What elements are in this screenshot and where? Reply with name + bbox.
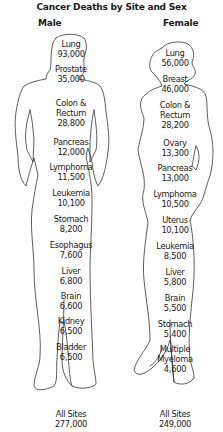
site-value: 10,500	[140, 199, 210, 209]
site-label: Liver	[36, 266, 106, 276]
site-label: Stomach	[36, 214, 106, 224]
female-site-stomach: Stomach 5,400	[140, 319, 210, 339]
site-value: 35,000	[36, 74, 106, 84]
site-value: 4,600	[140, 364, 210, 374]
site-value: 6,500	[36, 326, 106, 336]
male-site-pancreas: Pancreas 12,000	[36, 137, 106, 157]
male-site-lymphoma: Lymphoma 11,500	[36, 162, 106, 182]
male-site-leukemia: Leukemia 10,100	[36, 188, 106, 208]
site-label: Liver	[140, 267, 210, 277]
female-site-colon-rectum: Colon & Rectum 28,200	[140, 100, 210, 130]
total-label: All Sites	[140, 409, 210, 419]
male-site-liver: Liver 6,800	[36, 266, 106, 286]
site-label: Breast	[140, 74, 210, 84]
site-label: Bladder	[36, 342, 106, 352]
female-site-lung: Lung 56,000	[140, 48, 210, 68]
site-value: 11,500	[36, 172, 106, 182]
site-value: 13,300	[140, 148, 210, 158]
male-site-stomach: Stomach 8,200	[36, 214, 106, 234]
female-site-multiple-myeloma: Multiple Myeloma 4,600	[140, 344, 210, 374]
site-label: Kidney	[36, 316, 106, 326]
site-label: Leukemia	[140, 241, 210, 251]
site-value: 7,600	[36, 250, 106, 260]
total-value: 249,000	[140, 419, 210, 429]
site-label: Esophagus	[36, 240, 106, 250]
site-label: Colon & Rectum	[52, 98, 90, 118]
male-site-kidney: Kidney 6,500	[36, 316, 106, 336]
site-value: 12,000	[36, 147, 106, 157]
site-value: 56,000	[140, 58, 210, 68]
site-label: Lung	[140, 48, 210, 58]
site-label: Multiple Myeloma	[155, 344, 195, 364]
site-value: 6,800	[36, 276, 106, 286]
male-total: All Sites 277,000	[36, 409, 106, 429]
site-value: 13,000	[140, 173, 210, 183]
site-value: 6,600	[36, 301, 106, 311]
female-site-leukemia: Leukemia 8,500	[140, 241, 210, 261]
female-site-lymphoma: Lymphoma 10,500	[140, 189, 210, 209]
total-value: 277,000	[36, 419, 106, 429]
total-label: All Sites	[36, 409, 106, 419]
site-label: Lymphoma	[140, 189, 210, 199]
male-site-brain: Brain 6,600	[36, 291, 106, 311]
female-site-brain: Brain 5,500	[140, 293, 210, 313]
male-site-colon-rectum: Colon & Rectum 28,800	[36, 98, 106, 128]
female-total: All Sites 249,000	[140, 409, 210, 429]
site-value: 6,500	[36, 352, 106, 362]
site-value: 10,100	[140, 225, 210, 235]
male-site-lung: Lung 93,000	[36, 39, 106, 59]
site-value: 8,500	[140, 251, 210, 261]
site-label: Pancreas	[140, 163, 210, 173]
site-value: 5,800	[140, 277, 210, 287]
site-label: Leukemia	[36, 188, 106, 198]
female-site-breast: Breast 46,000	[140, 74, 210, 94]
site-label: Lung	[36, 39, 106, 49]
site-label: Stomach	[140, 319, 210, 329]
site-label: Brain	[36, 291, 106, 301]
site-value: 10,100	[36, 198, 106, 208]
female-site-uterus: Uterus 10,100	[140, 215, 210, 235]
site-label: Lymphoma	[36, 162, 106, 172]
site-value: 46,000	[140, 84, 210, 94]
male-body-outline	[15, 34, 109, 390]
site-value: 28,200	[140, 120, 210, 130]
site-label: Uterus	[140, 215, 210, 225]
site-label: Brain	[140, 293, 210, 303]
site-value: 28,800	[36, 118, 106, 128]
female-site-pancreas: Pancreas 13,000	[140, 163, 210, 183]
male-site-prostate: Prostate 35,000	[36, 64, 106, 84]
site-value: 5,500	[140, 303, 210, 313]
site-value: 5,400	[140, 329, 210, 339]
site-label: Pancreas	[36, 137, 106, 147]
female-site-ovary: Ovary 13,300	[140, 138, 210, 158]
male-site-esophagus: Esophagus 7,600	[36, 240, 106, 260]
site-value: 8,200	[36, 224, 106, 234]
female-site-liver: Liver 5,800	[140, 267, 210, 287]
site-label: Colon & Rectum	[156, 100, 194, 120]
site-label: Prostate	[36, 64, 106, 74]
male-site-bladder: Bladder 6,500	[36, 342, 106, 362]
site-label: Ovary	[140, 138, 210, 148]
site-value: 93,000	[36, 49, 106, 59]
